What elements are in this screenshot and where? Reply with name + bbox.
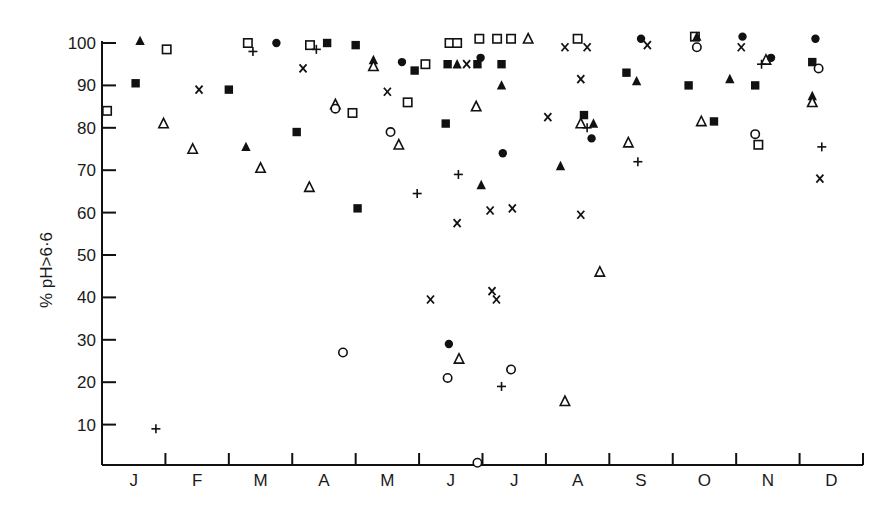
x-month-label: A [318, 471, 330, 490]
triangle-open-marker-icon [188, 144, 197, 153]
plus-marker-icon [454, 170, 463, 179]
square-open-marker-icon [754, 141, 762, 149]
y-axis-title: % pH>6·6 [37, 232, 56, 308]
x-month-label: A [572, 471, 584, 490]
y-axis-ticks: 102030405060708090100 [68, 34, 116, 435]
triangle-filled-marker-icon [632, 76, 641, 85]
square-open-marker-icon [453, 39, 461, 47]
square-filled-marker-icon [323, 39, 331, 47]
y-tick-label: 40 [77, 288, 96, 307]
triangle-open-marker-icon [256, 163, 265, 172]
square-filled-marker-icon [292, 128, 300, 136]
square-filled-marker-icon [497, 60, 505, 68]
plus-marker-icon [413, 189, 422, 198]
x-marker-icon [427, 296, 434, 304]
x-axis-month-labels: JFMAMJJASOND [129, 453, 863, 490]
triangle-open-marker-icon [454, 354, 463, 363]
square-open-marker-icon [475, 35, 483, 43]
plus-marker-icon [248, 47, 257, 56]
square-open-marker-icon [493, 35, 501, 43]
triangle-filled-marker-icon [725, 74, 734, 83]
chart-axes [102, 41, 863, 465]
x-marker-icon [584, 43, 591, 51]
circle-filled-marker-icon [398, 58, 406, 66]
y-tick-label: 90 [77, 76, 96, 95]
square-filled-marker-icon [225, 85, 233, 93]
y-tick-label: 50 [77, 246, 96, 265]
triangle-open-marker-icon [576, 118, 585, 127]
triangle-open-marker-icon [595, 267, 604, 276]
triangle-open-marker-icon [624, 137, 633, 146]
square-filled-marker-icon [710, 117, 718, 125]
square-filled-marker-icon [751, 81, 759, 89]
circle-open-marker-icon [331, 105, 339, 113]
square-open-marker-icon [306, 41, 314, 49]
plus-marker-icon [151, 424, 160, 433]
y-tick-label: 70 [77, 161, 96, 180]
triangle-open-marker-icon [471, 101, 480, 110]
x-marker-icon [738, 43, 745, 51]
triangle-open-marker-icon [159, 118, 168, 127]
x-marker-icon [454, 219, 461, 227]
circle-open-marker-icon [693, 43, 701, 51]
square-open-marker-icon [403, 98, 411, 106]
triangle-filled-marker-icon [135, 36, 144, 45]
x-month-label: J [129, 471, 138, 490]
square-filled-marker-icon [410, 66, 418, 74]
x-month-label: S [635, 471, 646, 490]
circle-filled-marker-icon [445, 340, 453, 348]
circle-filled-marker-icon [272, 39, 280, 47]
circle-open-marker-icon [814, 64, 822, 72]
x-marker-icon [384, 88, 391, 96]
triangle-open-marker-icon [394, 140, 403, 149]
x-marker-icon [487, 206, 494, 214]
x-month-label: D [825, 471, 837, 490]
y-tick-label: 20 [77, 373, 96, 392]
x-month-label: J [510, 471, 519, 490]
x-marker-icon [463, 60, 470, 68]
x-month-label: M [380, 471, 394, 490]
x-marker-icon [300, 64, 307, 72]
triangle-filled-marker-icon [589, 118, 598, 127]
data-points [103, 31, 826, 467]
square-filled-marker-icon [131, 79, 139, 87]
square-filled-marker-icon [684, 81, 692, 89]
y-tick-label: 60 [77, 204, 96, 223]
circle-open-marker-icon [443, 374, 451, 382]
plus-marker-icon [497, 382, 506, 391]
square-filled-marker-icon [351, 41, 359, 49]
square-open-marker-icon [162, 45, 170, 53]
square-open-marker-icon [103, 107, 111, 115]
x-month-label: O [698, 471, 711, 490]
x-marker-icon [544, 113, 551, 121]
circle-filled-marker-icon [738, 32, 746, 40]
circle-open-marker-icon [751, 130, 759, 138]
x-marker-icon [489, 287, 496, 295]
square-filled-marker-icon [443, 60, 451, 68]
x-marker-icon [577, 75, 584, 83]
circle-filled-marker-icon [811, 35, 819, 43]
x-marker-icon [493, 296, 500, 304]
x-marker-icon [196, 86, 203, 94]
square-filled-marker-icon [622, 68, 630, 76]
triangle-open-marker-icon [697, 116, 706, 125]
x-marker-icon [816, 175, 823, 183]
square-open-marker-icon [573, 35, 581, 43]
x-month-label: M [253, 471, 267, 490]
square-open-marker-icon [507, 35, 515, 43]
triangle-open-marker-icon [560, 396, 569, 405]
circle-open-marker-icon [386, 128, 394, 136]
plus-marker-icon [817, 142, 826, 151]
triangle-filled-marker-icon [452, 59, 461, 68]
scatter-chart: 102030405060708090100 JFMAMJJASOND % pH>… [0, 0, 890, 513]
x-marker-icon [509, 204, 516, 212]
circle-filled-marker-icon [767, 54, 775, 62]
circle-open-marker-icon [473, 459, 481, 467]
x-marker-icon [577, 211, 584, 219]
plus-marker-icon [633, 157, 642, 166]
x-month-label: N [762, 471, 774, 490]
x-marker-icon [644, 41, 651, 49]
triangle-filled-marker-icon [556, 161, 565, 170]
y-tick-label: 10 [77, 416, 96, 435]
x-month-label: F [192, 471, 202, 490]
